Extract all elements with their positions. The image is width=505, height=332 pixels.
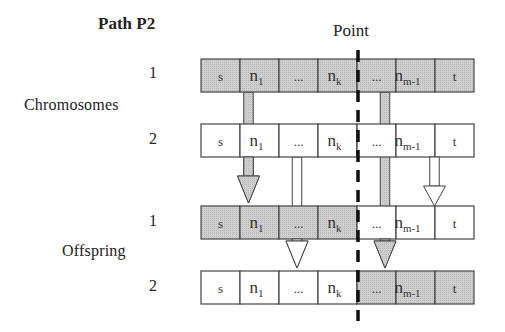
gene-cell: n1 bbox=[240, 271, 279, 304]
chromosome-row-offspring-2: sn1...nk...nm-1t bbox=[201, 271, 474, 304]
arrow-head bbox=[424, 186, 446, 206]
gene-label: ... bbox=[294, 216, 304, 231]
gene-label: s bbox=[218, 281, 223, 296]
gene-label: t bbox=[453, 216, 457, 231]
gene-cell: s bbox=[201, 59, 240, 92]
gene-cell: nk bbox=[318, 124, 357, 157]
gene-cell: nm-1 bbox=[394, 206, 435, 239]
gene-cell: t bbox=[435, 124, 474, 157]
gene-cell: s bbox=[201, 206, 240, 239]
gene-cell: n1 bbox=[240, 59, 279, 92]
gene-cell: nm-1 bbox=[394, 271, 435, 304]
gene-label: t bbox=[453, 134, 457, 149]
gene-cell: s bbox=[201, 271, 240, 304]
gene-cell: nk bbox=[318, 271, 357, 304]
gene-cell: ... bbox=[279, 59, 318, 92]
gene-label: ... bbox=[294, 134, 304, 149]
gene-cell: n1 bbox=[240, 124, 279, 157]
gene-cell: t bbox=[435, 271, 474, 304]
gene-label: t bbox=[453, 69, 457, 84]
gene-label: ... bbox=[294, 69, 304, 84]
gene-cell: ... bbox=[357, 59, 396, 92]
gene-cell: t bbox=[435, 59, 474, 92]
chromosome-row-chromosome-2: sn1...nk...nm-1t bbox=[201, 124, 474, 157]
gene-label: ... bbox=[372, 216, 382, 231]
gene-cell: ... bbox=[279, 206, 318, 239]
gene-label: t bbox=[453, 281, 457, 296]
gene-cell: n1 bbox=[240, 206, 279, 239]
gene-cell: nm-1 bbox=[394, 59, 435, 92]
crossover-diagram: sn1...nk...nm-1tsn1...nk...nm-1tsn1...nk… bbox=[0, 0, 505, 332]
arrow-head bbox=[374, 241, 396, 268]
gene-label: s bbox=[218, 134, 223, 149]
arrow-shaft-lower bbox=[244, 157, 254, 176]
gene-label: ... bbox=[372, 134, 382, 149]
gene-cell: s bbox=[201, 124, 240, 157]
gene-cell: ... bbox=[357, 206, 396, 239]
gene-cell: ... bbox=[357, 271, 396, 304]
gene-label: s bbox=[218, 216, 223, 231]
gene-label: ... bbox=[372, 281, 382, 296]
chromosome-row-offspring-1: sn1...nk...nm-1t bbox=[201, 206, 474, 239]
arrow-chrom2-nm1-to-offspring1 bbox=[424, 157, 446, 206]
gene-cell: nk bbox=[318, 59, 357, 92]
gene-cell: t bbox=[435, 206, 474, 239]
gene-cell: ... bbox=[357, 124, 396, 157]
gene-cell: nk bbox=[318, 206, 357, 239]
gene-label: s bbox=[218, 69, 223, 84]
gene-cell: nm-1 bbox=[394, 124, 435, 157]
gene-label: ... bbox=[372, 69, 382, 84]
gene-cell: ... bbox=[279, 271, 318, 304]
arrow-shaft bbox=[430, 157, 440, 186]
gene-label: ... bbox=[294, 281, 304, 296]
arrow-head bbox=[286, 241, 308, 268]
arrow-head bbox=[238, 176, 260, 203]
chromosome-row-chromosome-1: sn1...nk...nm-1t bbox=[201, 59, 474, 92]
gene-cell: ... bbox=[279, 124, 318, 157]
